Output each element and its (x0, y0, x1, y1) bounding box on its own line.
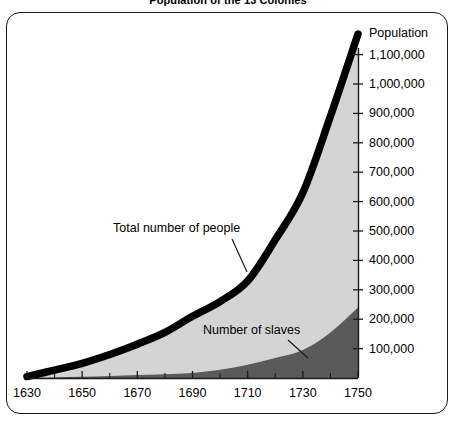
total-annotation-leader-line (232, 239, 247, 272)
y-axis-tick-label: 800,000 (369, 136, 414, 150)
x-axis-tick-label: 1750 (344, 386, 372, 400)
y-axis-tick-label: 600,000 (369, 195, 414, 209)
y-axis-title: Population (369, 26, 428, 40)
x-axis-tick-label: 1690 (179, 386, 207, 400)
chart-plot-area (0, 0, 456, 427)
y-axis-tick-label: 300,000 (369, 283, 414, 297)
x-axis-tick-label: 1650 (68, 386, 96, 400)
y-axis-tick-label: 400,000 (369, 253, 414, 267)
annotation-number-of-slaves: Number of slaves (203, 323, 300, 337)
y-axis-tick-label: 500,000 (369, 224, 414, 238)
x-axis-tick-label: 1710 (234, 386, 262, 400)
x-axis-tick-label: 1630 (13, 386, 41, 400)
x-axis-tick-label: 1730 (289, 386, 317, 400)
y-axis-tick-label: 900,000 (369, 106, 414, 120)
annotation-total-number-of-people: Total number of people (113, 221, 240, 235)
y-axis-tick-label: 1,100,000 (369, 48, 425, 62)
x-axis-tick-label: 1670 (123, 386, 151, 400)
y-axis-tick-label: 100,000 (369, 342, 414, 356)
total-population-area (27, 34, 358, 378)
y-axis-tick-label: 1,000,000 (369, 77, 425, 91)
y-axis-tick-label: 200,000 (369, 312, 414, 326)
y-axis-tick-label: 700,000 (369, 165, 414, 179)
